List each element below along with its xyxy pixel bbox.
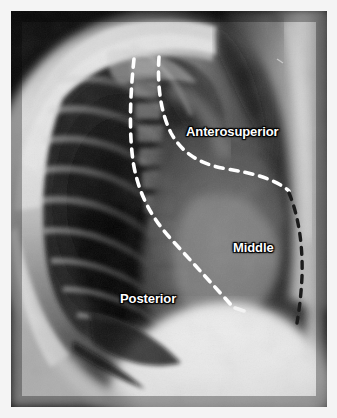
- annotation-overlay: Anterosuperior Middle Posterior: [11, 11, 327, 407]
- figure-container: Anterosuperior Middle Posterior: [0, 0, 337, 418]
- region-label-middle: Middle: [233, 240, 274, 255]
- region-label-anterosuperior: Anterosuperior: [186, 124, 279, 139]
- region-label-posterior: Posterior: [120, 291, 176, 306]
- radiograph-plate: Anterosuperior Middle Posterior: [11, 11, 327, 407]
